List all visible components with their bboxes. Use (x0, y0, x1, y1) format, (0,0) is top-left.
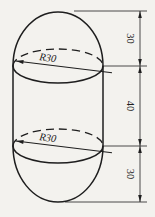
dim-arrow-up-upper-joint (138, 66, 142, 73)
capsule-technical-drawing: R30 R30 30 40 30 (0, 0, 155, 217)
radius-label-bottom: R30 (38, 131, 58, 144)
dim-label-top: 30 (125, 33, 136, 44)
bottom-dome-outline (13, 146, 103, 202)
top-ellipse-front-edge (13, 66, 103, 83)
radius-label-top: R30 (38, 51, 58, 64)
dim-arrow-down-bottom (138, 195, 142, 202)
radius-arrowhead-bottom (16, 140, 24, 144)
dim-label-bottom: 30 (125, 169, 136, 180)
dim-arrow-up-lower-joint (138, 146, 142, 153)
drawing-sheet: R30 R30 30 40 30 (0, 0, 155, 217)
dim-arrow-down-upper-joint (138, 59, 142, 66)
dim-arrow-up-top (138, 11, 142, 18)
radius-leader-line-top (16, 61, 112, 73)
dimension-chain: 30 40 30 (125, 11, 142, 202)
dim-arrow-down-lower-joint (138, 139, 142, 146)
radius-arrowhead-top (16, 60, 24, 64)
top-dome-outline (13, 12, 103, 66)
top-ellipse-back-edge (13, 49, 103, 66)
radius-callout-top: R30 (16, 51, 112, 73)
capsule-outline (13, 12, 103, 202)
dim-label-middle: 40 (125, 101, 136, 112)
radius-leader-line-bottom (16, 141, 112, 153)
radius-callout-bottom: R30 (16, 131, 112, 153)
bottom-ellipse-front-edge (13, 146, 103, 163)
bottom-ellipse-back-edge (13, 129, 103, 146)
